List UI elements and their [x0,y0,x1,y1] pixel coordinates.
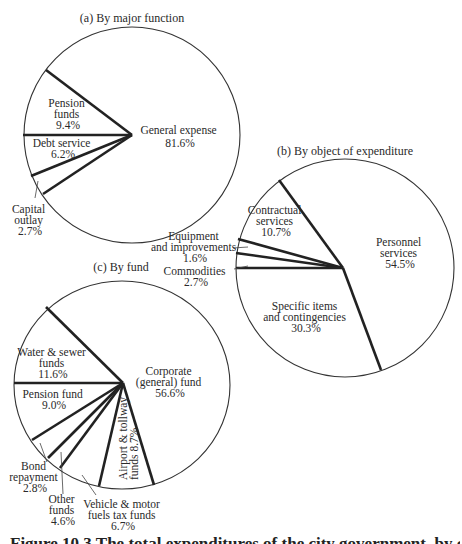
pie-chart-by-fund: (c) By fund Corporate (general) fund 56.… [9,260,230,532]
chart-title-b: (b) By object of expenditure [277,144,413,158]
slice-label-capital-outlay: Capital outlay 2.7% [12,203,48,237]
slice-label-commodities: Commodities 2.7% [164,265,229,288]
pie-chart-major-function: (a) By major function General expense 81… [12,11,240,243]
chart-title-a: (a) By major function [80,11,184,25]
pie-charts-figure: (a) By major function General expense 81… [0,0,462,544]
slice-label-vehicle-motor-fuels: Vehicle & motor fuels tax funds 6.7% [83,498,163,532]
chart-title-c: (c) By fund [93,260,148,274]
figure-caption: Figure 10.3 The total expenditures of th… [10,533,460,544]
slice-label-other-funds: Other funds 4.6% [48,493,77,527]
